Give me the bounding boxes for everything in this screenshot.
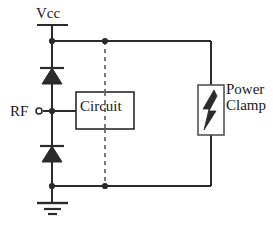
vcc-rail-circuit-junction [102, 38, 108, 44]
rf-node-junction [49, 108, 55, 114]
ground-rail-left-junction [49, 183, 55, 189]
ground-symbol [37, 203, 68, 214]
ground-rail-circuit-junction [102, 183, 108, 189]
vcc-rail-left-junction [49, 38, 55, 44]
lower-diode-triangle [42, 146, 62, 162]
circuit-block-label: Circuit [80, 99, 122, 115]
upper-diode-triangle [42, 68, 62, 84]
power-clamp-label-line1: Power [226, 81, 264, 97]
upper-diode [40, 68, 64, 84]
power-clamp-label-line2: Clamp [226, 98, 266, 114]
rf-port-circle [36, 108, 42, 114]
circuit-diagram-canvas: Vcc RF Circuit PowerClamp [0, 0, 273, 228]
power-clamp-rect [198, 85, 224, 135]
rf-label: RF [10, 104, 28, 120]
power-clamp-label: PowerClamp [226, 82, 266, 114]
vcc-label: Vcc [36, 6, 60, 22]
lower-diode [40, 146, 64, 162]
schematic-drawing [0, 0, 273, 228]
